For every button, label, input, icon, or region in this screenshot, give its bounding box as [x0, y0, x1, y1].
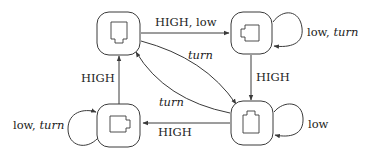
label-loop-topright: low, turn: [307, 25, 358, 39]
loop-topright: [273, 13, 302, 47]
loop-bottomright: [274, 104, 303, 136]
loop-bottomleft: [68, 111, 98, 146]
label-loop-bottomright: low: [308, 117, 329, 131]
node-bottom-right[interactable]: [231, 101, 273, 145]
label-turn-lower: turn: [159, 95, 184, 109]
label-topleft-topright: HIGH, low: [155, 15, 217, 29]
node-top-right[interactable]: [231, 12, 272, 54]
label-loop-bottomleft: low, turn: [13, 118, 64, 132]
label-bottomright-bottomleft: HIGH: [158, 125, 192, 139]
label-turn-upper: turn: [188, 48, 213, 62]
label-topright-bottomright: HIGH: [256, 70, 290, 84]
node-top-left[interactable]: [97, 12, 140, 55]
node-bottom-left[interactable]: [97, 104, 140, 147]
state-diagram: HIGH, low low, turn HIGH turn turn low H…: [0, 0, 371, 148]
label-bottomleft-topleft: HIGH: [81, 71, 115, 85]
